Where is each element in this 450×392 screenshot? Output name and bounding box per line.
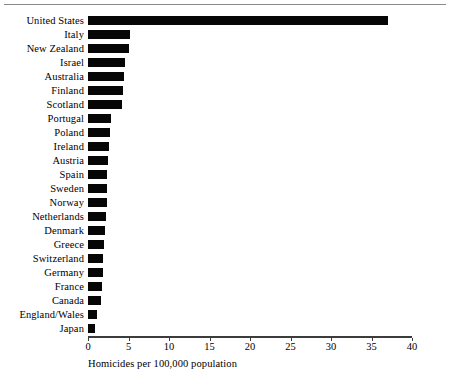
top-divider-rule <box>4 4 446 5</box>
category-label: Australia <box>45 70 84 84</box>
category-label: Germany <box>44 266 84 280</box>
bar-row: Japan <box>0 322 450 336</box>
x-axis-tick-label: 0 <box>85 341 90 353</box>
category-label: Poland <box>54 126 84 140</box>
bar <box>88 226 105 235</box>
bar <box>88 310 97 319</box>
bar-row: France <box>0 280 450 294</box>
x-axis-tick-label: 15 <box>204 341 215 353</box>
category-label: France <box>55 280 84 294</box>
bar <box>88 198 107 207</box>
x-axis-tick-label: 30 <box>326 341 337 353</box>
bar-track <box>88 322 418 336</box>
bar-track <box>88 112 418 126</box>
bar <box>88 100 122 109</box>
bar <box>88 142 109 151</box>
bar-track <box>88 308 418 322</box>
bar-row: New Zealand <box>0 42 450 56</box>
bar-row: Scotland <box>0 98 450 112</box>
category-label: Norway <box>50 196 84 210</box>
x-axis-tick-label: 25 <box>285 341 296 353</box>
bar-row: Switzerland <box>0 252 450 266</box>
bar <box>88 58 125 67</box>
category-label: United States <box>26 14 84 28</box>
bar-row: Austria <box>0 154 450 168</box>
category-label: England/Wales <box>19 308 84 322</box>
bar-track <box>88 28 418 42</box>
bar-track <box>88 84 418 98</box>
category-label: Denmark <box>44 224 84 238</box>
category-label: Austria <box>52 154 84 168</box>
category-label: Spain <box>60 168 84 182</box>
x-axis-tick-label: 10 <box>164 341 175 353</box>
category-label: Italy <box>64 28 84 42</box>
bar-track <box>88 14 418 28</box>
bar-track <box>88 238 418 252</box>
bar-row: Germany <box>0 266 450 280</box>
bar <box>88 30 130 39</box>
bar <box>88 170 107 179</box>
category-label: Switzerland <box>33 252 84 266</box>
bar <box>88 156 108 165</box>
bar <box>88 44 129 53</box>
bar-row: Greece <box>0 238 450 252</box>
bar <box>88 128 110 137</box>
bar-track <box>88 210 418 224</box>
x-axis: 0510152025303540 Homicides per 100,000 p… <box>0 336 450 392</box>
bar <box>88 268 103 277</box>
bar-row: Portugal <box>0 112 450 126</box>
category-label: Sweden <box>50 182 84 196</box>
bar <box>88 114 111 123</box>
bar <box>88 254 103 263</box>
bar-row: England/Wales <box>0 308 450 322</box>
bar-row: Ireland <box>0 140 450 154</box>
bar-row: Sweden <box>0 182 450 196</box>
bar-row: Norway <box>0 196 450 210</box>
homicide-rate-bar-chart: United StatesItalyNew ZealandIsraelAustr… <box>0 0 450 392</box>
bar-track <box>88 252 418 266</box>
category-label: Scotland <box>46 98 84 112</box>
bar <box>88 296 101 305</box>
category-label: Japan <box>60 322 84 336</box>
x-axis-tick-label: 5 <box>126 341 131 353</box>
category-label: Finland <box>51 84 84 98</box>
bar-row: Italy <box>0 28 450 42</box>
bar-track <box>88 140 418 154</box>
bar-track <box>88 182 418 196</box>
bar-track <box>88 196 418 210</box>
category-label: New Zealand <box>27 42 84 56</box>
bar-track <box>88 70 418 84</box>
bar-row: Australia <box>0 70 450 84</box>
category-label: Ireland <box>54 140 84 154</box>
bar-track <box>88 280 418 294</box>
x-axis-title: Homicides per 100,000 population <box>88 357 237 370</box>
category-label: Greece <box>54 238 84 252</box>
category-label: Israel <box>60 56 84 70</box>
x-axis-tick-label: 35 <box>366 341 377 353</box>
bar <box>88 212 106 221</box>
bar-row: Spain <box>0 168 450 182</box>
bar-track <box>88 98 418 112</box>
bar-track <box>88 294 418 308</box>
bar <box>88 240 104 249</box>
category-label: Canada <box>52 294 84 308</box>
x-axis-tick-label: 40 <box>407 341 418 353</box>
category-label: Portugal <box>48 112 84 126</box>
bar-track <box>88 266 418 280</box>
category-label: Netherlands <box>32 210 84 224</box>
bar <box>88 282 102 291</box>
bar-row: Finland <box>0 84 450 98</box>
bar-row: Canada <box>0 294 450 308</box>
bar-track <box>88 56 418 70</box>
bar <box>88 16 388 25</box>
bar <box>88 324 95 333</box>
bar-track <box>88 126 418 140</box>
bar-track <box>88 154 418 168</box>
x-axis-tick-label: 20 <box>245 341 256 353</box>
bar-track <box>88 224 418 238</box>
bar <box>88 72 124 81</box>
chart-plot-area: United StatesItalyNew ZealandIsraelAustr… <box>0 14 450 336</box>
bar-track <box>88 42 418 56</box>
bar-row: Poland <box>0 126 450 140</box>
bar <box>88 86 123 95</box>
